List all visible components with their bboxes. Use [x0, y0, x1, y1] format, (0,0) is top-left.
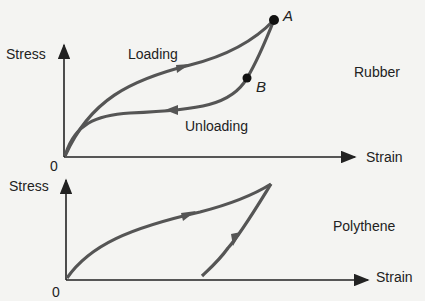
polythene-unloading-curve — [202, 184, 271, 276]
polythene-y-axis-label: Stress — [9, 179, 49, 193]
polythene-axes — [66, 180, 368, 280]
rubber-loading-curve — [65, 20, 274, 156]
rubber-origin-label: 0 — [50, 159, 58, 173]
point-b-label: B — [256, 79, 266, 94]
point-a-label: A — [283, 8, 293, 23]
rubber-loading-arrow-icon — [176, 64, 190, 73]
rubber-x-axis-label: Strain — [366, 150, 403, 164]
unloading-label: Unloading — [185, 119, 248, 133]
diagram-canvas — [0, 0, 425, 301]
rubber-unloading-arrow-icon — [165, 105, 178, 115]
rubber-title: Rubber — [354, 65, 400, 79]
point-a-marker — [269, 15, 279, 25]
loading-label: Loading — [128, 47, 178, 61]
rubber-y-axis-label: Stress — [6, 47, 46, 61]
polythene-origin-label: 0 — [52, 285, 60, 299]
point-b-marker — [243, 74, 252, 83]
polythene-title: Polythene — [333, 219, 395, 233]
polythene-loading-arrow-icon — [181, 211, 196, 221]
polythene-x-axis-label: Strain — [376, 270, 413, 284]
